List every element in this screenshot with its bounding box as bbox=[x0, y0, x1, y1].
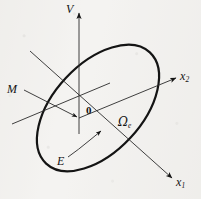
ellipse-chord-line bbox=[12, 83, 110, 124]
orbital-plane-figure: V x2 x1 M 0 Ωe E bbox=[0, 0, 201, 199]
node-label-M: M bbox=[7, 83, 17, 95]
axis-label-vertical: V bbox=[66, 3, 73, 15]
x2-axis-line bbox=[79, 78, 176, 118]
orbital-ellipse bbox=[14, 22, 182, 193]
angle-label-E: E bbox=[57, 155, 64, 167]
angle-arc-E bbox=[68, 131, 101, 157]
omega-glyph: Ω bbox=[118, 115, 128, 129]
origin-label: 0 bbox=[86, 105, 92, 116]
node-line-M bbox=[24, 90, 77, 117]
axis-label-x1: x1 bbox=[176, 176, 185, 189]
angle-label-omega: Ωe bbox=[118, 116, 131, 129]
x1-axis-line bbox=[30, 51, 172, 178]
axis-label-x2: x2 bbox=[180, 70, 189, 83]
axis-label-x2-subscript: 2 bbox=[185, 75, 189, 84]
figure-canvas bbox=[0, 0, 201, 199]
angle-label-omega-subscript: e bbox=[128, 121, 131, 130]
axis-label-x1-subscript: 1 bbox=[181, 181, 185, 190]
